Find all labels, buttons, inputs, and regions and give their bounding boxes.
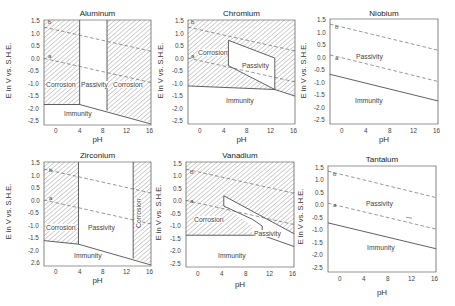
x-axis-label: pH [186, 280, 294, 289]
x-axis-label: pH [44, 276, 151, 285]
chart-title: Tantalum [328, 155, 436, 164]
region-label-immunity: Immunity [367, 244, 395, 251]
region-label-immunity: Immunity [226, 97, 254, 104]
y-axis-label: E in V vs. S.H.E. [156, 36, 165, 106]
line-label-a: a [335, 55, 338, 61]
region-label-corrosion: Corrosion [46, 81, 75, 88]
line-label-a: a [49, 195, 52, 201]
line-label-a: a [333, 202, 336, 208]
x-axis-label: pH [330, 135, 438, 144]
line-b [330, 24, 438, 50]
line-label-b: b [190, 169, 193, 175]
region-label-corrosion: Corrosion [46, 224, 75, 231]
y-axis-label: E in V vs. S.H.E. [4, 36, 13, 106]
chart-title: Zirconium [44, 151, 151, 160]
plot-area [328, 166, 436, 272]
plot-area [330, 19, 438, 124]
chart-title: Chromium [188, 9, 295, 18]
chart-title: Niobium [330, 9, 438, 18]
region-label-immunity: Immunity [74, 252, 102, 259]
y-axis-label: E in V vs. S.H.E. [296, 182, 305, 252]
line-label-a: a [48, 53, 51, 59]
immunity-boundary [330, 74, 438, 101]
region-label-corrosion: Corrosion [194, 216, 223, 223]
corrosion-region [44, 162, 78, 244]
chart-title: Aluminum [44, 9, 151, 18]
plot-area [44, 20, 151, 125]
line-a [330, 55, 438, 82]
y-axis-label: E in V vs. S.H.E. [4, 177, 13, 247]
chart-title: Vanadium [186, 151, 294, 160]
region-label-immunity: Immunity [64, 110, 92, 117]
line-a [328, 203, 436, 229]
line-label-b: b [335, 24, 338, 30]
region-label-corrosion: Corrosion [198, 49, 227, 56]
region-label-corrosion: Corrosion [113, 81, 142, 88]
line-label-a: a [191, 53, 194, 59]
region-label-passivity: Passivity [88, 224, 115, 231]
region-label-passivity: Passivity [254, 230, 281, 237]
x-axis-label: pH [188, 135, 295, 144]
region-label-immunity: Immunity [218, 252, 246, 259]
region-label-immunity: Immunity [355, 97, 383, 104]
region-label-passivity: Passivity [366, 200, 393, 207]
line-b [328, 171, 436, 197]
line-label-b: b [191, 19, 194, 25]
line-label-b: b [48, 19, 51, 25]
x-axis-label: pH [328, 288, 436, 297]
region-label-passivity: Passivity [356, 53, 383, 60]
line-label-a: a [190, 198, 193, 204]
region-label-passivity: Passivity [242, 62, 269, 69]
line-label-b: b [49, 167, 52, 173]
x-axis-label: pH [44, 135, 151, 144]
line-label-b: b [333, 171, 336, 177]
region-label-corrosion: Corrosion [135, 199, 142, 228]
y-axis-label: E in V vs. S.H.E. [154, 178, 163, 248]
plot-area [188, 20, 295, 124]
y-axis-label: E in V vs. S.H.E. [299, 36, 308, 106]
region-label-passivity: Passivity [81, 81, 108, 88]
corrosion-region [186, 162, 294, 235]
corrosion-region [107, 20, 151, 122]
